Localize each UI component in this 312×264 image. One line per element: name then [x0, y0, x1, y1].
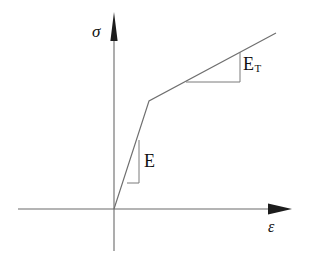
y-axis-label: σ: [92, 23, 100, 40]
x-axis-arrow-icon: [268, 203, 292, 214]
elastic-modulus-label: E: [144, 152, 155, 170]
tangent-modulus-subscript: T: [254, 62, 261, 74]
x-axis-label: ε: [268, 219, 274, 235]
y-axis-arrow-icon: [110, 12, 117, 41]
stress-strain-figure: σ ε E ET: [0, 0, 312, 264]
tangent-modulus-label: ET: [243, 55, 261, 74]
tangent-modulus-base: E: [243, 54, 254, 74]
figure-canvas: [0, 0, 312, 264]
